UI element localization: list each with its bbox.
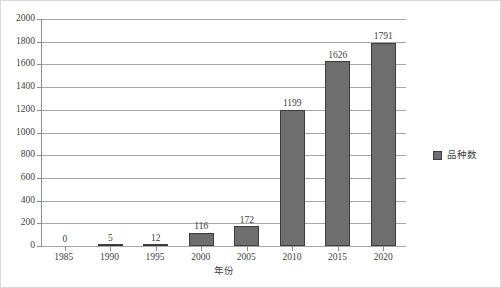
x-axis-tick (156, 246, 157, 251)
bar-value-label: 1199 (283, 99, 302, 109)
bar-slot: 116 (179, 19, 225, 246)
bar[interactable]: 172 (234, 226, 259, 246)
bar-value-label: 1626 (328, 51, 347, 61)
y-axis-tick-label: 0 (30, 241, 35, 251)
bar-slot: 172 (224, 19, 270, 246)
x-axis-tick (338, 246, 339, 251)
bar-value-label: 172 (240, 216, 254, 226)
y-axis-tick-label: 200 (21, 219, 35, 229)
y-axis-tick-label: 2000 (16, 14, 35, 24)
bar[interactable]: 1626 (325, 61, 350, 246)
bar-value-label: 5 (108, 234, 113, 244)
bar-value-label: 116 (194, 222, 208, 232)
legend-swatch-icon (433, 151, 442, 160)
bar[interactable]: 116 (189, 233, 214, 246)
y-axis-tick (37, 246, 42, 247)
x-axis-tick-label: 2000 (178, 253, 224, 263)
chart-figure: 0200400600800100012001400160018002000 05… (0, 0, 501, 288)
y-axis-tick-label: 1000 (16, 128, 35, 138)
bar-slot: 1791 (361, 19, 407, 246)
bar-slot: 0 (42, 19, 88, 246)
y-axis-tick-label: 1600 (16, 60, 35, 70)
bar-value-label: 1791 (374, 32, 393, 42)
x-axis-tick (383, 246, 384, 251)
x-axis-tick (65, 246, 66, 251)
x-axis-tick-label: 2015 (315, 253, 361, 263)
x-axis-tick-label: 1995 (132, 253, 178, 263)
y-axis-tick-label: 800 (21, 150, 35, 160)
x-axis-title: 年份 (41, 267, 406, 277)
x-axis-tick-label: 2020 (360, 253, 406, 263)
gridline (42, 246, 406, 247)
x-axis-tick (201, 246, 202, 251)
bar[interactable]: 1791 (371, 43, 396, 246)
bar[interactable]: 1199 (280, 110, 305, 246)
bar-value-label: 0 (62, 235, 67, 245)
bar-slot: 5 (88, 19, 134, 246)
y-axis-tick-label: 400 (21, 196, 35, 206)
x-axis-tick-label: 1985 (41, 253, 87, 263)
bar-slot: 1199 (270, 19, 316, 246)
y-axis-tick-label: 1400 (16, 82, 35, 92)
x-axis-tick (292, 246, 293, 251)
x-axis-tick-label: 1990 (87, 253, 133, 263)
legend-label: 品种数 (447, 151, 477, 161)
y-axis-tick-label: 1200 (16, 105, 35, 115)
x-axis-tick-label: 2005 (224, 253, 270, 263)
y-axis-tick-label: 600 (21, 173, 35, 183)
x-axis-tick (110, 246, 111, 251)
bar-slot: 1626 (315, 19, 361, 246)
chart-legend: 品种数 (433, 151, 477, 161)
y-axis-tick-label: 1800 (16, 37, 35, 47)
plot-area: 0200400600800100012001400160018002000 05… (41, 19, 406, 247)
bar-slot: 12 (133, 19, 179, 246)
bar-series-pinzhongshu: 0512116172119916261791 (42, 19, 406, 246)
bar-value-label: 12 (151, 234, 161, 244)
x-axis-tick-label: 2010 (269, 253, 315, 263)
x-axis-tick (247, 246, 248, 251)
x-axis-tick-labels: 19851990199520002005201020152020 (41, 253, 406, 263)
